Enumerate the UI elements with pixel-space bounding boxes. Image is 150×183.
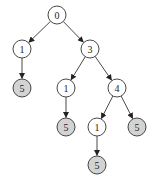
- tree-node-leaf: 5: [13, 79, 31, 97]
- edge-arrow: [121, 96, 133, 119]
- tree-node: 3: [81, 40, 99, 58]
- node-label: 3: [88, 44, 93, 55]
- tree-node-leaf: 5: [57, 118, 75, 136]
- edge-arrow: [71, 57, 85, 80]
- node-label: 5: [95, 160, 100, 171]
- tree-node-leaf: 5: [128, 118, 146, 136]
- tree-node: 1: [13, 40, 31, 58]
- node-label: 0: [55, 10, 60, 21]
- edge-arrow: [29, 21, 51, 42]
- tree-diagram: 0135145155: [0, 0, 150, 183]
- node-label: 5: [64, 122, 69, 133]
- tree-node: 0: [48, 6, 66, 24]
- node-label: 1: [95, 122, 100, 133]
- nodes-group: 0135145155: [13, 6, 146, 174]
- node-label: 5: [135, 122, 140, 133]
- tree-node: 4: [108, 79, 126, 97]
- edge-arrow: [63, 21, 83, 42]
- edge-arrow: [95, 56, 111, 80]
- node-label: 1: [20, 44, 25, 55]
- tree-node-leaf: 5: [88, 156, 106, 174]
- node-label: 4: [115, 83, 120, 94]
- tree-node: 1: [57, 79, 75, 97]
- node-label: 1: [64, 83, 69, 94]
- tree-node: 1: [88, 118, 106, 136]
- node-label: 5: [20, 83, 25, 94]
- edge-arrow: [101, 96, 113, 119]
